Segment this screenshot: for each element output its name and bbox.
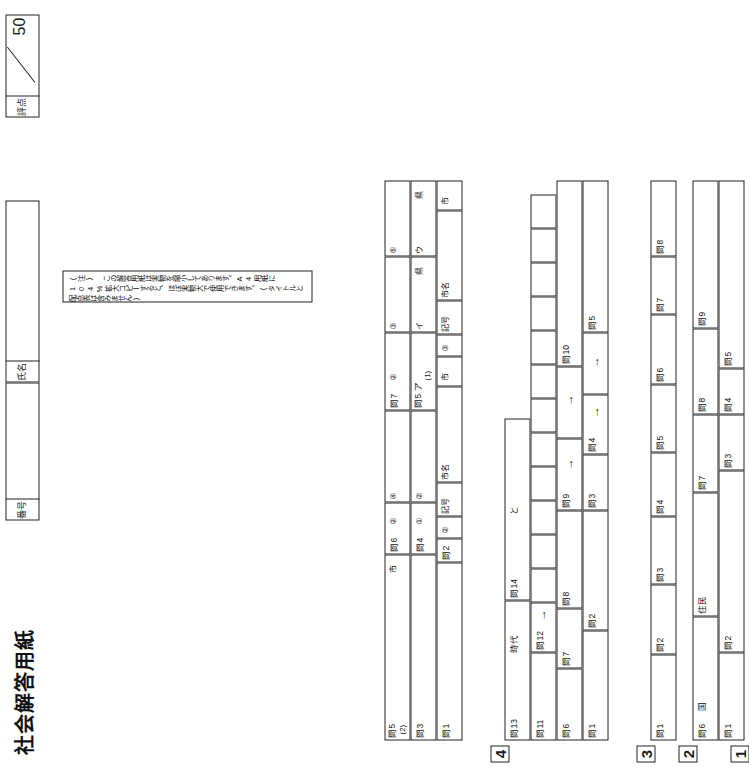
student-number-input[interactable] <box>5 382 39 498</box>
s3-r1-c1-label: 問1 <box>587 723 596 737</box>
s1-r2-c3-label: 問7 <box>697 475 706 489</box>
s2-c3-label: 問3 <box>655 567 664 581</box>
s4-r3-c1-suffix: 市 <box>389 564 397 572</box>
s4-r1-c3[interactable] <box>436 356 462 386</box>
s3-r2-c5-arrow: → <box>563 394 574 405</box>
s3-answer-grid-cell[interactable] <box>530 228 556 262</box>
section-number-2: 2 <box>678 745 697 762</box>
s1-r1-c2[interactable] <box>718 470 744 652</box>
s1-r2-c5-label: 問9 <box>697 311 706 325</box>
s4-r2-c5-suffix: 県 <box>415 266 423 274</box>
s3-r2-c2-label: 問7 <box>561 651 570 665</box>
s2-c5-label: 問5 <box>655 435 664 449</box>
print-note-text: (注) この解答用紙は実物を縮小してあります。A4用紙に104%拡大コピーすると… <box>67 274 301 303</box>
s4-r1-c1[interactable] <box>436 562 462 740</box>
print-note: (注) この解答用紙は実物を縮小してあります。A4用紙に104%拡大コピーすると… <box>62 270 312 302</box>
s1-r2-c1-suffix: 国 <box>697 701 706 710</box>
s4-r3-c6[interactable] <box>384 180 410 256</box>
s4-r1-c2-mark-num: ② <box>441 526 449 533</box>
s4-r3-c4-label: 問7 <box>389 393 398 407</box>
s3-r1-c3-label: 問3 <box>587 493 596 507</box>
score-label: 評点 <box>5 95 39 117</box>
s3-answer-grid-cell[interactable] <box>530 262 556 296</box>
s3-answer-grid-cell[interactable] <box>530 568 556 602</box>
s4-r3-c5[interactable] <box>384 256 410 332</box>
s4-r3-c3[interactable] <box>384 410 410 502</box>
s3-answer-grid-cell[interactable] <box>530 330 556 364</box>
s4-r3-c6-mark: ⑤ <box>389 246 397 253</box>
s3-r1-c4-label: 問4 <box>587 437 596 451</box>
s4-r2-c4-label: 問5 ア <box>413 382 422 407</box>
s3-answer-grid-cell[interactable] <box>530 432 556 466</box>
s3-r1-c5-arrow: → <box>589 356 600 367</box>
s1-r1-c5-label: 問5 <box>723 351 732 365</box>
s3-r3-c2-label: 問12 <box>535 631 544 649</box>
s1-r2-c1[interactable] <box>692 616 718 740</box>
s3-r2-c3-label: 問8 <box>561 591 570 605</box>
s3-r1-c6[interactable] <box>582 180 608 332</box>
s2-c4-label: 問4 <box>655 499 664 513</box>
s3-answer-grid-cell[interactable] <box>530 296 556 330</box>
s1-r1-c2-label: 問2 <box>723 635 732 649</box>
s1-r1-c5[interactable] <box>718 180 744 368</box>
s4-r2-c5-mark: イ <box>415 321 423 329</box>
s4-r3-c2-label: 問6 <box>389 537 398 551</box>
section-number-3: 3 <box>636 745 655 762</box>
student-name-input[interactable] <box>5 200 39 360</box>
score-total: 50 <box>10 17 28 35</box>
s3-answer-grid-cell[interactable] <box>530 500 556 534</box>
s1-r2-c4-label: 問8 <box>697 397 706 411</box>
s4-r3-c5-mark: ③ <box>389 322 397 329</box>
s4-r1-c2-city-label: 市名 <box>441 463 449 479</box>
section-number-4: 4 <box>490 745 509 762</box>
s4-r3-c3-mark: ④ <box>389 492 397 499</box>
s3-r4-c2-suffix: と <box>509 505 518 514</box>
s4-r1-c4-city-label: 市名 <box>441 281 449 297</box>
s3-answer-grid-cell[interactable] <box>530 194 556 228</box>
s4-r2-c2-label: 問4 <box>415 537 424 551</box>
s3-r2-c6[interactable] <box>556 180 582 366</box>
s1-r1-c3-label: 問3 <box>723 453 732 467</box>
s4-r1-c4-mark-num: ③ <box>441 344 449 351</box>
s1-r2-c2-suffix: 住民 <box>697 595 706 613</box>
s3-r1-c2[interactable] <box>582 510 608 630</box>
s4-r1-c5[interactable] <box>436 180 462 210</box>
s4-r2-c1[interactable] <box>410 554 436 740</box>
s1-r1-c1-label: 問1 <box>723 723 732 737</box>
s3-r2-c4-arrow: → <box>563 458 574 469</box>
s3-r3-c1-label: 問11 <box>535 719 544 737</box>
s3-answer-grid-cell[interactable] <box>530 466 556 500</box>
s2-c6-label: 問6 <box>655 367 664 381</box>
s4-r1-c2-label: 問2 <box>441 545 450 559</box>
s3-r3-c2-arrow: → <box>536 609 547 620</box>
s3-r4-c1-label: 問13 <box>509 719 518 737</box>
s1-r2-c5[interactable] <box>692 180 718 328</box>
s4-r1-c2-sign-label: 記号 <box>441 497 449 513</box>
student-number-label: 番号 <box>5 498 39 520</box>
s2-c2-label: 問2 <box>655 637 664 651</box>
student-name-label: 氏名 <box>5 360 39 382</box>
s4-r2-c3-mark: ② <box>415 492 423 499</box>
s3-r4-c2-label: 問14 <box>509 579 518 597</box>
s3-r1-c4-arrow: → <box>589 406 600 417</box>
s3-r1-c6-label: 問5 <box>587 315 596 329</box>
s4-r3-c1-label: 問5 <box>387 723 396 737</box>
s3-answer-grid-cell[interactable] <box>530 398 556 432</box>
s4-r3-c4-mark: ② <box>389 373 397 380</box>
s4-r2-c6-suffix: 県 <box>415 190 423 198</box>
s3-r4-c1-suffix: 時代 <box>509 634 518 652</box>
s4-r2-c4-sub: (1) <box>423 370 431 380</box>
page-title: 社会解答用紙 <box>8 628 37 754</box>
s3-r2-c4-label: 問9 <box>561 493 570 507</box>
s3-answer-grid-cell[interactable] <box>530 364 556 398</box>
s4-r3-c1[interactable] <box>384 554 410 740</box>
s3-answer-grid-cell[interactable] <box>530 534 556 568</box>
s4-r1-c1-label: 問1 <box>441 723 450 737</box>
s4-r1-c4-sign-label: 記号 <box>441 315 449 331</box>
s2-c1-label: 問1 <box>655 723 664 737</box>
section-number-1: 1 <box>730 745 749 762</box>
s4-r2-c1-label: 問3 <box>415 723 424 737</box>
s4-r1-c5-suffix: 市 <box>441 196 449 204</box>
s4-r2-c3[interactable] <box>410 410 436 502</box>
